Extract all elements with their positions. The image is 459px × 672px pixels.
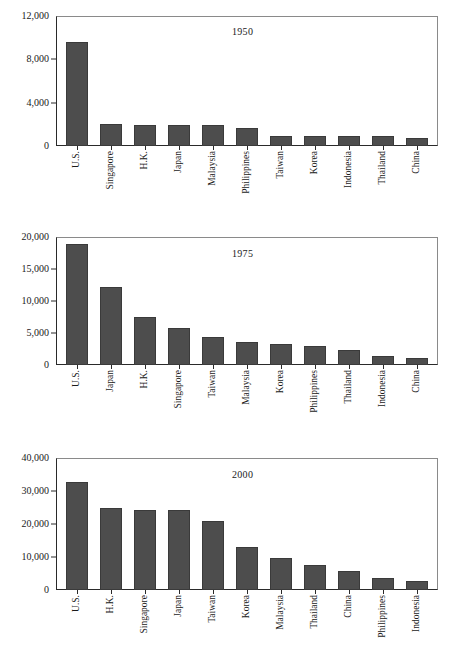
bar-slot — [94, 17, 128, 146]
y-tick-label: 10,000 — [22, 296, 50, 306]
x-tick-slot — [230, 590, 264, 594]
x-tick-mark — [315, 365, 316, 369]
three-panel-bar-chart-figure: 04,0008,00012,000 1950 U.S.SingaporeH.K.… — [0, 0, 459, 672]
x-tick-mark — [383, 146, 384, 150]
bar — [168, 125, 189, 146]
bar-slot — [366, 238, 400, 365]
x-tick-slot — [366, 146, 400, 150]
x-tick-slot — [264, 365, 298, 369]
y-axis-1950: 04,0008,00012,000 — [0, 16, 56, 146]
x-axis-label: Singapore — [106, 151, 116, 190]
bar-slot — [230, 17, 264, 146]
x-axis-label: H.K. — [106, 595, 116, 613]
x-tick-mark — [213, 590, 214, 594]
x-axis-labels-1975: U.S.JapanH.K.SingaporeTaiwanMalaysiaKore… — [57, 370, 437, 442]
x-tick-mark — [77, 590, 78, 594]
bar-slot — [196, 459, 230, 590]
x-tick-slot — [162, 365, 196, 369]
x-tick-mark — [315, 590, 316, 594]
chart-panel-1975: 05,00010,00015,00020,000 1975 U.S.JapanH… — [0, 224, 459, 445]
y-tick-label: 10,000 — [22, 552, 50, 562]
bar — [100, 124, 121, 146]
x-tick-slot — [60, 146, 94, 150]
bar — [202, 521, 223, 590]
x-label-slot: Thailand — [332, 370, 366, 442]
x-axis-label: Singapore — [174, 370, 184, 409]
bar-series-1975 — [57, 238, 437, 365]
bar-slot — [60, 238, 94, 365]
x-axis-label: China — [344, 595, 354, 618]
x-tick-mark — [145, 365, 146, 369]
x-label-slot: H.K. — [94, 595, 128, 669]
x-label-slot: Korea — [264, 370, 298, 442]
bar — [406, 358, 427, 365]
bar — [202, 125, 223, 146]
x-tick-slot — [162, 146, 196, 150]
x-axis-label: Malaysia — [242, 370, 252, 405]
x-label-slot: China — [400, 370, 434, 442]
chart-panel-2000: 010,00020,00030,00040,000 2000 U.S.H.K.S… — [0, 445, 459, 672]
x-label-slot: Taiwan — [264, 151, 298, 221]
x-axis-label: Korea — [242, 595, 252, 618]
y-tick-label: 20,000 — [22, 232, 50, 242]
bar-slot — [264, 17, 298, 146]
x-label-slot: Thailand — [366, 151, 400, 221]
bar — [134, 510, 155, 590]
x-tick-mark — [247, 146, 248, 150]
bar-slot — [298, 459, 332, 590]
y-axis-1975: 05,00010,00015,00020,000 — [0, 237, 56, 365]
x-axis-labels-2000: U.S.H.K.SingaporeJapanTaiwanKoreaMalaysi… — [57, 595, 437, 669]
x-label-slot: Indonesia — [332, 151, 366, 221]
x-label-slot: U.S. — [60, 151, 94, 221]
bar — [100, 287, 121, 365]
x-tick-mark — [417, 365, 418, 369]
x-label-slot: U.S. — [60, 595, 94, 669]
x-tick-slot — [264, 146, 298, 150]
bar — [372, 578, 393, 590]
bar-slot — [128, 238, 162, 365]
x-tick-marks-1950 — [57, 146, 437, 150]
x-label-slot: H.K. — [128, 370, 162, 442]
bar-slot — [60, 17, 94, 146]
bar — [338, 571, 359, 590]
x-tick-mark — [111, 365, 112, 369]
x-label-slot: Korea — [230, 595, 264, 669]
bar-slot — [162, 238, 196, 365]
bar — [236, 342, 257, 365]
x-axis-label: Malaysia — [208, 151, 218, 186]
x-label-slot: Indonesia — [366, 370, 400, 442]
x-label-slot: Japan — [94, 370, 128, 442]
x-tick-mark — [213, 146, 214, 150]
x-tick-mark — [349, 146, 350, 150]
x-tick-slot — [94, 590, 128, 594]
bar — [304, 565, 325, 590]
x-tick-mark — [179, 365, 180, 369]
x-tick-mark — [281, 365, 282, 369]
x-tick-slot — [366, 590, 400, 594]
x-tick-slot — [400, 590, 434, 594]
x-label-slot: Japan — [162, 151, 196, 221]
x-tick-mark — [417, 590, 418, 594]
x-tick-mark — [111, 590, 112, 594]
bar — [134, 317, 155, 365]
x-axis-labels-1950: U.S.SingaporeH.K.JapanMalaysiaPhilippine… — [57, 151, 437, 221]
x-tick-slot — [298, 365, 332, 369]
x-tick-slot — [94, 146, 128, 150]
x-axis-label: Philippines — [242, 151, 252, 194]
bar — [304, 136, 325, 146]
bar-slot — [298, 17, 332, 146]
x-tick-mark — [77, 146, 78, 150]
bar-slot — [400, 17, 434, 146]
bar — [202, 337, 223, 365]
x-tick-mark — [179, 146, 180, 150]
bar — [168, 328, 189, 365]
x-label-slot: Singapore — [128, 595, 162, 669]
x-tick-slot — [196, 146, 230, 150]
bar-slot — [264, 238, 298, 365]
y-tick-label: 15,000 — [22, 264, 50, 274]
x-axis-label: Indonesia — [344, 151, 354, 188]
bar-slot — [366, 17, 400, 146]
x-label-slot: Japan — [162, 595, 196, 669]
x-tick-mark — [383, 365, 384, 369]
x-tick-slot — [60, 590, 94, 594]
